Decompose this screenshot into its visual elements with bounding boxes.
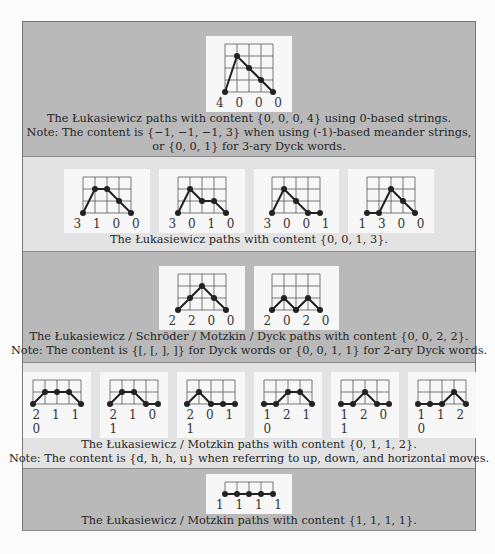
path-card-row: 1 1 1 1 [206,474,292,514]
path-vertex-dot [222,491,228,497]
path-vertex-dot [128,210,134,216]
figure-frame: 4 0 0 0The Łukasiewicz paths with conten… [22,21,476,531]
path-code-label: 2 2 0 0 [169,314,239,330]
path-vertex-dot [222,89,228,95]
path-vertex-dot [175,307,181,313]
path-vertex-dot [293,307,299,313]
path-vertex-dot [104,186,110,192]
path-card: 4 0 0 0 [206,36,292,112]
panel-2: 3 1 0 03 0 1 03 0 0 11 3 0 0The Łukasiew… [23,157,475,252]
path-code-label: 4 0 0 0 [216,96,286,112]
path-card: 1 1 2 0 [408,372,476,438]
path-code-label: 1 1 1 1 [216,498,286,514]
path-card: 2 1 1 0 [23,372,91,438]
path-vertex-dot [309,401,315,407]
path-vertex-dot [439,401,445,407]
path-code-label: 1 2 0 1 [341,408,393,438]
path-vertex-dot [92,186,98,192]
grid [418,380,466,404]
lattice-path-diagram [268,173,324,217]
path-card: 3 0 0 1 [254,169,340,233]
panel-caption: The Łukasiewicz / Motzkin paths with con… [81,438,417,452]
path-vertex-dot [196,389,202,395]
panel-4: 2 1 1 02 1 0 12 0 1 11 2 1 01 2 0 11 1 2… [23,363,475,469]
panel-caption: The Łukasiewicz / Motzkin paths with con… [81,514,417,528]
path-vertex-dot [261,401,267,407]
path-vertex-dot [293,198,299,204]
panel-note: Note: The content is {[, [, ], ]} for Dy… [11,344,487,358]
path-vertex-dot [463,401,469,407]
path-code-label: 2 1 1 0 [33,408,85,438]
path-vertex-dot [78,401,84,407]
path-vertex-dot [364,210,370,216]
path-vertex-dot [281,186,287,192]
path-vertex-dot [211,295,217,301]
path-code-label: 3 1 0 0 [74,217,144,233]
path-vertex-dot [317,210,323,216]
path-vertex-dot [234,491,240,497]
path-card: 2 2 0 0 [159,266,245,330]
panel-caption: The Łukasiewicz paths with content {0, 0… [47,112,451,126]
panel-1: 4 0 0 0The Łukasiewicz paths with conten… [23,22,475,157]
path-card: 1 3 0 0 [348,169,434,233]
path-vertex-dot [412,210,418,216]
path-vertex-dot [305,295,311,301]
path-card: 3 0 1 0 [159,169,245,233]
path-vertex-dot [338,401,344,407]
path-vertex-dot [143,401,149,407]
path-code-label: 3 0 0 1 [264,217,334,233]
lattice-path-diagram [363,173,419,217]
lattice-path-diagram [79,173,135,217]
grid [83,177,131,213]
grid [272,177,320,213]
grid [178,274,226,310]
lattice-path-diagram [414,376,470,408]
path-code-label: 1 3 0 0 [358,217,428,233]
path-code-label: 2 0 2 0 [264,314,334,330]
lattice-path-diagram [106,376,162,408]
path-vertex-dot [317,307,323,313]
path-vertex-dot [187,295,193,301]
lattice-path-diagram [221,40,277,96]
path-vertex-dot [427,401,433,407]
path-card-row: 3 1 0 03 0 1 03 0 0 11 3 0 0 [64,169,435,233]
path-code-label: 1 2 1 0 [264,408,316,438]
path-vertex-dot [80,210,86,216]
path-vertex-dot [116,198,122,204]
path-vertex-dot [388,186,394,192]
path-vertex-dot [400,198,406,204]
panel-caption: The Łukasiewicz / Schröder / Motzkin / D… [30,330,469,344]
lattice-path-diagram [268,270,324,314]
path-vertex-dot [376,210,382,216]
path-vertex-dot [415,401,421,407]
lattice-path-diagram [337,376,393,408]
path-vertex-dot [270,89,276,95]
path-vertex-dot [119,389,125,395]
path-vertex-dot [54,389,60,395]
path-vertex-dot [246,491,252,497]
path-vertex-dot [199,283,205,289]
path-vertex-dot [66,389,72,395]
path-card: 2 0 1 1 [177,372,245,438]
path-vertex-dot [30,401,36,407]
panel-note: Note: The content is {−1, −1, −1, 3} whe… [27,126,472,140]
path-vertex-dot [187,186,193,192]
path-card-row: 2 2 0 02 0 2 0 [159,266,340,330]
path-vertex-dot [223,307,229,313]
path-card: 2 1 0 1 [100,372,168,438]
panel-5: 1 1 1 1The Łukasiewicz / Motzkin paths w… [23,469,475,530]
path-vertex-dot [211,198,217,204]
path-card: 1 2 0 1 [331,372,399,438]
path-card: 1 1 1 1 [206,474,292,514]
path-vertex-dot [281,295,287,301]
path-code-label: 2 1 0 1 [110,408,162,438]
path-vertex-dot [374,401,380,407]
panel-note: Note: The content is {d, h, h, u} when r… [9,452,489,466]
path-vertex-dot [175,210,181,216]
path-vertex-dot [232,401,238,407]
path-vertex-dot [131,389,137,395]
path-vertex-dot [155,401,161,407]
path-vertex-dot [350,401,356,407]
lattice-path-diagram [174,173,230,217]
path-card: 2 0 2 0 [254,266,340,330]
